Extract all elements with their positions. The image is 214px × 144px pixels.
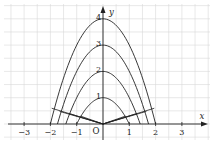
x-tick-label: 2 [153, 128, 158, 137]
x-axis-arrow-icon [201, 122, 208, 127]
x-tick-label: −2 [45, 128, 57, 137]
y-axis-arrow-icon [101, 6, 106, 13]
origin-segment [103, 116, 125, 124]
x-axis-label: x [200, 111, 205, 121]
vertex-label: 4 [96, 13, 101, 22]
labels: 4321−3−2−1123Oxy [18, 7, 204, 137]
x-tick-label: 1 [127, 128, 132, 137]
vertex-label: 1 [96, 92, 101, 101]
coordinate-diagram: 4321−3−2−1123Oxy [0, 0, 214, 144]
x-tick-label: −3 [18, 128, 30, 137]
vertex-label: 3 [96, 39, 101, 48]
axes [8, 6, 208, 140]
origin-segment [81, 116, 103, 124]
x-tick-label: 3 [179, 128, 184, 137]
vertex-label: 2 [96, 65, 101, 74]
origin-label: O [93, 126, 100, 136]
y-axis-label: y [108, 7, 114, 17]
x-tick-label: −1 [71, 128, 83, 137]
